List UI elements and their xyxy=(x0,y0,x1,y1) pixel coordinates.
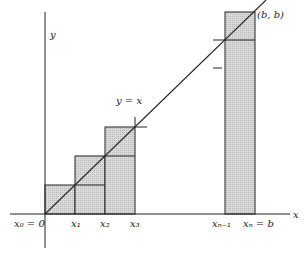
tick-label-x2: x₂ xyxy=(100,218,110,229)
x-axis-label: x xyxy=(293,209,299,220)
tick-label-xn: xₙ = b xyxy=(243,218,274,229)
rect-3 xyxy=(105,127,135,214)
rect-n xyxy=(225,12,255,214)
tick-label-x0: x₀ = 0 xyxy=(14,218,45,229)
tick-label-x3: x₃ xyxy=(130,218,140,229)
tick-label-xn-1: xₙ₋₁ xyxy=(212,218,231,229)
y-axis-label: y xyxy=(49,29,56,40)
tick-label-x1: x₁ xyxy=(71,218,81,229)
curve-label: y = x xyxy=(115,95,142,106)
riemann-sum-diagram: y x y = x (b, b) x₀ = 0 x₁ x₂ x₃ xₙ₋₁ xₙ… xyxy=(0,0,307,254)
point-label: (b, b) xyxy=(257,9,284,20)
